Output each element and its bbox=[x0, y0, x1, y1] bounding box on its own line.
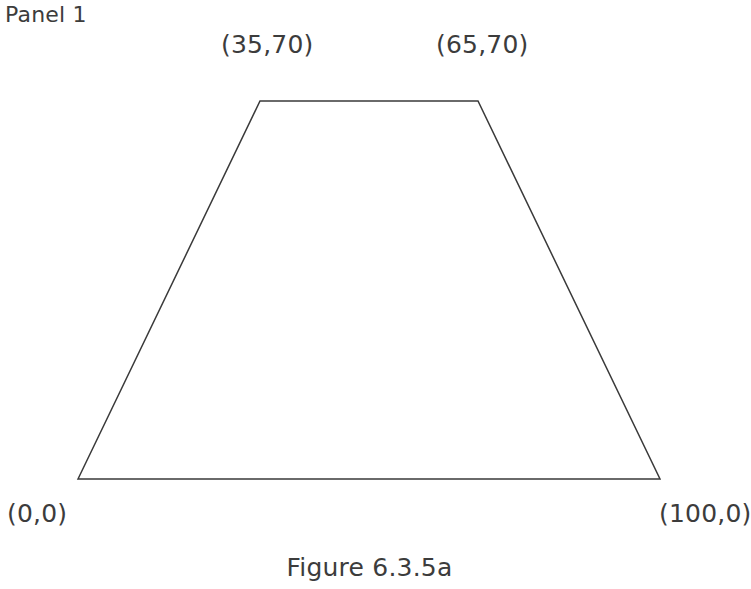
panel-label: Panel 1 bbox=[5, 2, 87, 28]
figure-caption: Figure 6.3.5a bbox=[0, 553, 739, 583]
vertex-label-bottom-left: (0,0) bbox=[7, 499, 67, 529]
vertex-label-top-right: (65,70) bbox=[436, 30, 528, 60]
vertex-label-top-left: (35,70) bbox=[221, 30, 313, 60]
vertex-label-bottom-right: (100,0) bbox=[659, 499, 751, 529]
